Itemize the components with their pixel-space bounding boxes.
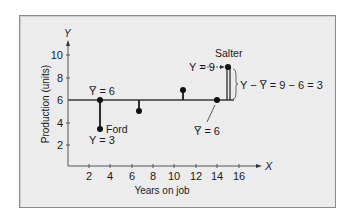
point-ford xyxy=(97,97,103,103)
point-3 xyxy=(180,87,186,93)
x-tick-10: 10 xyxy=(168,170,180,182)
x-axis-label: Years on job xyxy=(134,185,190,196)
x-axis-arrow-icon xyxy=(256,164,262,168)
y-tick-8: 8 xyxy=(57,72,63,84)
x-tick-12: 12 xyxy=(190,170,202,182)
chart-svg: Y X 10 8 6 4 2 2 4 6 8 10 12 14 16 Years… xyxy=(0,0,349,221)
point-2 xyxy=(136,108,142,114)
y-axis-symbol: Y xyxy=(64,28,72,39)
point-salter xyxy=(225,64,231,70)
point-4 xyxy=(214,97,220,103)
x-axis-symbol: X xyxy=(264,160,273,172)
y-axis xyxy=(66,44,70,166)
salter-value-label: Y = 9 xyxy=(189,61,215,73)
point-ford-actual xyxy=(97,126,103,132)
x-tick-8: 8 xyxy=(150,170,156,182)
deviation-label: Y − Y̅ = 9 − 6 = 3 xyxy=(240,79,323,91)
deviation-brace xyxy=(233,69,238,99)
x-tick-2: 2 xyxy=(86,170,92,182)
y-tick-labels: 10 8 6 4 2 xyxy=(51,49,63,151)
data-points xyxy=(97,64,231,132)
x-axis xyxy=(68,164,258,168)
x-tick-6: 6 xyxy=(129,170,135,182)
salter-name-label: Salter xyxy=(215,47,243,59)
mean-right-pointer xyxy=(207,105,215,122)
y-tick-6: 6 xyxy=(57,94,63,106)
mean-right-label: Y̅ = 6 xyxy=(194,125,220,137)
ford-value-label: Y = 3 xyxy=(89,134,115,146)
salter-deviation-bar xyxy=(227,67,230,100)
x-tick-16: 16 xyxy=(233,170,245,182)
y-tick-4: 4 xyxy=(57,117,63,129)
x-tick-14: 14 xyxy=(211,170,223,182)
x-tick-labels: 2 4 6 8 10 12 14 16 xyxy=(86,170,245,182)
y-axis-label: Production (units) xyxy=(40,65,51,143)
y-tick-2: 2 xyxy=(57,139,63,151)
y-axis-arrow-icon xyxy=(66,40,70,46)
y-tick-10: 10 xyxy=(51,49,63,61)
mean-left-label: Y̅ = 6 xyxy=(89,85,115,97)
x-tick-4: 4 xyxy=(107,170,113,182)
